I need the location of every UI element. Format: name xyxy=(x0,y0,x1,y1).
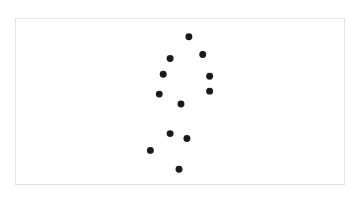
scatter-plot xyxy=(16,19,344,184)
data-point xyxy=(167,55,174,62)
data-point xyxy=(178,101,185,108)
data-point xyxy=(199,51,206,58)
data-point xyxy=(156,91,163,98)
chart-frame xyxy=(15,18,345,185)
data-point xyxy=(183,135,190,142)
data-point xyxy=(160,71,167,78)
data-point xyxy=(176,166,183,173)
data-point xyxy=(147,147,154,154)
data-point xyxy=(167,130,174,137)
data-points xyxy=(147,33,213,172)
data-point xyxy=(185,33,192,40)
data-point xyxy=(206,88,213,95)
data-point xyxy=(206,73,213,80)
